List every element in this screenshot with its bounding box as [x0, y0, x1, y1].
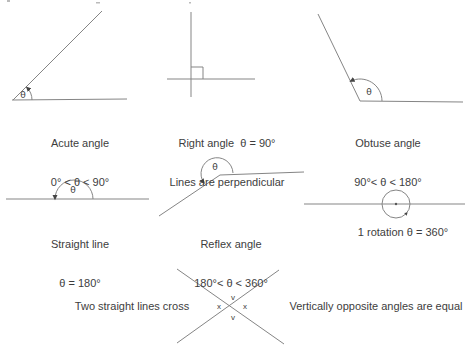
acute-theta-label: θ [20, 91, 26, 100]
obtuse-ray-line [318, 14, 360, 101]
obtuse-angle-range: 90°< θ < 180° [354, 176, 422, 189]
cross-angle-label-top: v [231, 294, 235, 302]
right-angle-figure [167, 12, 255, 97]
right-angle-square-mark [191, 67, 203, 79]
obtuse-angle-figure [318, 14, 463, 102]
right-angle-name: Right angle θ = 90° [170, 137, 285, 150]
cross-right-caption: Vertically opposite angles are equal [289, 300, 462, 313]
obtuse-angle-name: Obtuse angle [354, 137, 422, 150]
acute-base-line [12, 99, 127, 100]
rotation-caption: 1 rotation θ = 360° [358, 226, 448, 239]
obtuse-angle-caption: Obtuse angle 90°< θ < 180° [354, 111, 422, 215]
cross-angle-label-right: x [243, 303, 247, 311]
right-angle-note: Lines are perpendicular [170, 176, 285, 189]
cross-angle-label-bottom: v [231, 314, 235, 322]
acute-angle-name: Acute angle [51, 137, 109, 150]
reflex-angle-range: 180°< θ < 360° [194, 277, 268, 290]
straight-line-name: Straight line [51, 238, 109, 251]
acute-angle-figure [12, 11, 127, 100]
acute-angle-arc [27, 87, 32, 100]
obtuse-theta-label: θ [366, 88, 372, 97]
straight-line-range: θ = 180° [51, 277, 109, 290]
acute-ray-line [13, 11, 102, 100]
cross-angle-label-left: x [217, 303, 221, 311]
cross-left-caption: Two straight lines cross [75, 300, 189, 313]
acute-angle-range: 0° < θ < 90° [51, 176, 109, 189]
obtuse-base-line [360, 101, 463, 102]
right-angle-caption: Right angle θ = 90° Lines are perpendicu… [170, 111, 285, 215]
acute-angle-caption: Acute angle 0° < θ < 90° [51, 111, 109, 215]
reflex-angle-name: Reflex angle [194, 238, 268, 251]
angle-types-diagram: θ θ θ θ Acute angle 0° < θ < 90° Right a… [0, 0, 466, 361]
cropped-text-artifacts [7, 0, 191, 4]
